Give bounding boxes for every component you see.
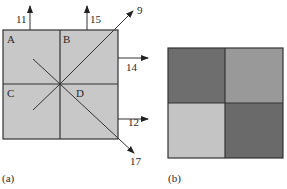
caption-b: (b) <box>168 172 181 185</box>
caption-a: (a) <box>2 172 15 185</box>
region-label-d: D <box>76 87 84 99</box>
region-label-c: C <box>7 87 14 99</box>
region-label-b: B <box>63 33 70 45</box>
arrow-label-12: 12 <box>128 116 139 128</box>
region-label-a: A <box>7 33 15 45</box>
arrow-label-17: 17 <box>130 155 142 167</box>
panel-b: (b) <box>168 48 283 185</box>
quadrant-top-left <box>168 48 225 103</box>
arrow-label-9: 9 <box>137 4 143 16</box>
quadrant-top-right <box>225 48 283 103</box>
arrow-label-15: 15 <box>90 13 102 25</box>
diagram-canvas: A B C D 11 15 9 14 12 17 (a) (b) <box>0 0 287 189</box>
panel-a: A B C D 11 15 9 14 12 17 (a) <box>2 4 148 185</box>
quadrant-bottom-left <box>168 103 225 158</box>
arrow-label-11: 11 <box>16 13 27 25</box>
arrow-label-14: 14 <box>126 61 138 73</box>
quadrant-bottom-right <box>225 103 283 158</box>
